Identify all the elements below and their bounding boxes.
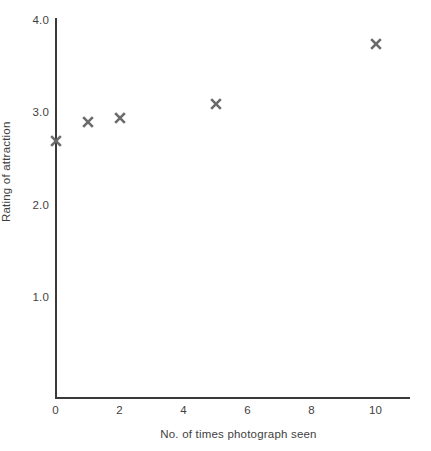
data-point-marker	[48, 133, 64, 149]
data-point-marker	[368, 36, 384, 52]
scatter-plot-figure: 1.02.03.04.0 0246810 Rating of attractio…	[0, 0, 431, 451]
data-point-marker	[208, 96, 224, 112]
data-point-marker	[80, 114, 96, 130]
data-point-marker	[112, 110, 128, 126]
plot-area	[0, 0, 431, 451]
